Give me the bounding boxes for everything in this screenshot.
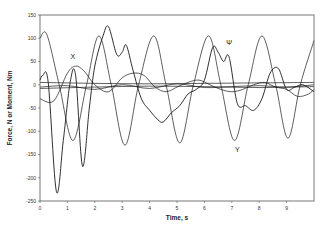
y-tick-label: 50 [30,58,36,64]
x-axis-title: Time, s [166,214,189,222]
x-axis-tick-labels: 0123456789 [39,205,289,211]
y-tick-label: -200 [26,175,36,181]
x-tick-label: 7 [230,205,233,211]
x-tick-label: 9 [285,205,288,211]
y-tick-label: 0 [33,82,36,88]
series-line-1 [40,26,314,193]
y-tick-label: -50 [29,105,36,111]
y-axis-tick-labels: 150100500-50-100-150-200-250 [26,12,36,204]
series-label: Ψ [226,39,232,46]
x-tick-label: 2 [93,205,96,211]
y-tick-label: -250 [26,198,36,204]
chart: 150100500-50-100-150-200-250 0123456789 … [0,0,330,229]
y-axis-title: Force, N or Moment, Nm [6,70,14,145]
x-tick-label: 8 [258,205,261,211]
x-tick-label: 3 [121,205,124,211]
y-tick-label: 100 [28,35,37,41]
series-label: X [71,53,76,60]
x-tick-label: 4 [148,205,151,211]
y-tick-label: 150 [28,12,37,18]
x-tick-label: 5 [176,205,179,211]
y-tick-label: -100 [26,128,36,134]
series-labels: XΨY [71,39,240,153]
x-tick-label: 1 [66,205,69,211]
y-tick-label: -150 [26,151,36,157]
plot-series [40,26,314,193]
x-tick-label: 6 [203,205,206,211]
x-tick-label: 0 [39,205,42,211]
series-label: Y [235,146,240,153]
series-line-0 [40,32,314,145]
